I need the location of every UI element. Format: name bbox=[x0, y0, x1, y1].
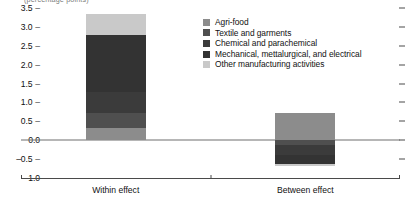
right-axis-tick-mark bbox=[399, 83, 405, 84]
y-axis-tick-mark: – bbox=[35, 79, 40, 89]
bar-group bbox=[86, 8, 146, 178]
legend-item[interactable]: Chemical and parachemical bbox=[203, 38, 361, 49]
y-axis-tick-mark: – bbox=[35, 41, 40, 51]
y-axis-tick-text: –0.5 bbox=[16, 154, 32, 164]
right-axis-tick-mark bbox=[399, 102, 405, 103]
legend-swatch-icon bbox=[203, 61, 210, 68]
y-axis-tick-mark: – bbox=[35, 60, 40, 70]
legend-item[interactable]: Mechanical, mettalurgical, and electrica… bbox=[203, 49, 361, 60]
legend-item-label: Chemical and parachemical bbox=[215, 39, 317, 47]
y-axis-tick-text: 3.0 bbox=[21, 22, 33, 32]
bar-segment bbox=[275, 164, 335, 166]
zero-baseline bbox=[21, 140, 400, 141]
right-axis-tick-mark bbox=[399, 64, 405, 65]
bar-segment bbox=[275, 113, 335, 140]
y-axis-tick-text: 0.5 bbox=[21, 116, 33, 126]
legend-swatch-icon bbox=[203, 29, 210, 36]
y-axis-tick-text: 1.0 bbox=[21, 97, 33, 107]
y-axis-tick-label: 1.5– bbox=[0, 79, 42, 89]
bar-segment bbox=[86, 113, 146, 128]
right-axis-tick-mark bbox=[399, 45, 405, 46]
legend-item[interactable]: Other manufacturing activities bbox=[203, 59, 361, 70]
y-axis-tick-label: 0.5– bbox=[0, 116, 42, 126]
y-axis-tick-label: 2.5– bbox=[0, 41, 42, 51]
x-axis-end-cap bbox=[21, 175, 22, 179]
right-axis-tick-mark bbox=[399, 121, 405, 122]
y-axis-tick-label: –0.5– bbox=[0, 154, 42, 164]
bar-segment bbox=[86, 35, 146, 92]
legend-item-label: Agri-food bbox=[215, 18, 249, 26]
y-axis-tick-text: 2.0 bbox=[21, 60, 33, 70]
y-axis-tick-label: 3.0– bbox=[0, 22, 42, 32]
legend-item-label: Other manufacturing activities bbox=[215, 60, 324, 68]
legend-item-label: Mechanical, mettalurgical, and electrica… bbox=[215, 50, 361, 58]
bar-segment bbox=[275, 155, 335, 164]
x-axis-end-cap bbox=[399, 175, 400, 179]
legend-swatch-icon bbox=[203, 51, 210, 58]
x-axis-category-divider bbox=[210, 175, 211, 179]
y-axis-tick-mark: – bbox=[35, 116, 40, 126]
bar-segment bbox=[86, 14, 146, 35]
y-axis-tick-mark: – bbox=[35, 154, 40, 164]
chart-legend: Agri-foodTextile and garmentsChemical an… bbox=[203, 17, 361, 70]
legend-swatch-icon bbox=[203, 40, 210, 47]
legend-item[interactable]: Agri-food bbox=[203, 17, 361, 28]
y-axis-tick-mark: – bbox=[35, 97, 40, 107]
right-axis-tick-mark bbox=[399, 159, 405, 160]
y-axis-tick-label: 1.0– bbox=[0, 97, 42, 107]
bar-segment bbox=[275, 145, 335, 154]
x-axis-category-label: Within effect bbox=[92, 185, 139, 195]
legend-swatch-icon bbox=[203, 19, 210, 26]
y-axis-tick-text: 2.5 bbox=[21, 41, 33, 51]
right-axis-tick-mark bbox=[399, 8, 405, 9]
y-axis-tick-mark: – bbox=[35, 22, 40, 32]
right-axis-tick-mark bbox=[399, 26, 405, 27]
y-axis-tick-mark: – bbox=[35, 3, 40, 13]
x-axis-category-label: Between effect bbox=[277, 185, 334, 195]
y-axis-tick-label: 3.5– bbox=[0, 3, 42, 13]
legend-item-label: Textile and garments bbox=[215, 29, 291, 37]
y-axis-tick-text: 1.5 bbox=[21, 79, 33, 89]
bar-segment bbox=[86, 128, 146, 140]
y-axis-tick-text: 3.5 bbox=[21, 3, 33, 13]
bar-segment bbox=[86, 92, 146, 113]
y-axis-tick-label: 2.0– bbox=[0, 60, 42, 70]
legend-item[interactable]: Textile and garments bbox=[203, 28, 361, 39]
